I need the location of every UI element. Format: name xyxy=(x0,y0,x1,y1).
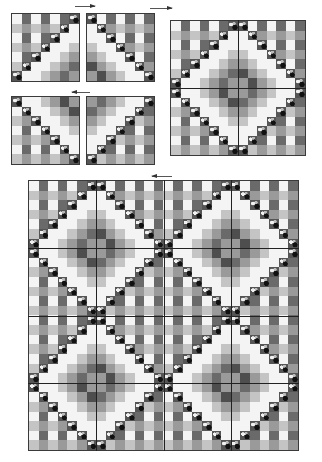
quilt-square xyxy=(173,335,183,345)
quilt-square xyxy=(240,200,250,210)
quilt-square xyxy=(238,126,248,136)
quilt-square xyxy=(200,59,210,69)
quilt-square xyxy=(106,229,116,239)
quilt-square xyxy=(125,43,135,53)
quilt-square xyxy=(67,354,77,364)
quilt-square xyxy=(96,248,106,258)
quilt-square xyxy=(231,440,241,450)
quilt-square xyxy=(154,392,164,402)
quilt-square xyxy=(144,364,154,374)
quilt-square xyxy=(181,40,191,50)
quilt-square xyxy=(67,431,77,441)
quilt-square xyxy=(67,296,77,306)
quilt-square xyxy=(96,239,106,249)
quilt-square xyxy=(50,135,60,145)
quilt-square xyxy=(106,154,116,164)
quilt-square xyxy=(295,126,305,136)
quilt-square xyxy=(286,136,296,146)
quilt-square xyxy=(22,145,32,155)
quilt-square xyxy=(269,373,279,383)
quilt-square xyxy=(67,421,77,431)
quilt-square xyxy=(260,210,270,220)
quilt-square xyxy=(269,335,279,345)
quilt-square xyxy=(69,43,79,53)
quilt-square xyxy=(288,296,298,306)
quilt-square xyxy=(58,181,68,191)
quilt-square xyxy=(221,181,231,191)
quilt-square xyxy=(200,136,210,146)
quilt-square xyxy=(60,71,70,81)
quilt-square xyxy=(257,126,267,136)
quilt-square xyxy=(231,421,241,431)
quilt-square xyxy=(60,97,70,107)
quilt-square xyxy=(228,107,238,117)
quilt-square xyxy=(106,412,116,422)
quilt-square xyxy=(58,364,68,374)
quilt-square xyxy=(173,267,183,277)
quilt-square xyxy=(288,383,298,393)
quilt-square xyxy=(77,325,87,335)
quilt-square xyxy=(295,21,305,31)
quilt-square xyxy=(212,296,222,306)
quilt-square xyxy=(87,239,97,249)
quilt-square xyxy=(221,258,231,268)
quilt-square xyxy=(22,33,32,43)
quilt-square xyxy=(77,383,87,393)
quilt-square xyxy=(231,239,241,249)
quilt-square xyxy=(286,88,296,98)
quilt-square xyxy=(250,258,260,268)
quilt-square xyxy=(87,354,97,364)
quilt-square xyxy=(190,59,200,69)
quilt-square xyxy=(212,402,222,412)
quilt-square xyxy=(116,24,126,34)
quilt-square xyxy=(163,344,173,354)
quilt-square xyxy=(181,107,191,117)
quilt-square xyxy=(77,219,87,229)
quilt-square xyxy=(77,191,87,201)
quilt-square xyxy=(144,154,154,164)
quilt-square xyxy=(250,364,260,374)
quilt-square xyxy=(171,69,181,79)
quilt-square xyxy=(190,136,200,146)
quilt-square xyxy=(221,219,231,229)
quilt-square xyxy=(221,306,231,316)
quilt-square xyxy=(181,98,191,108)
quilt-square xyxy=(135,107,145,117)
quilt-square xyxy=(67,239,77,249)
quilt-square xyxy=(260,267,270,277)
quilt-square xyxy=(96,277,106,287)
quilt-square xyxy=(41,154,51,164)
quilt-square xyxy=(279,258,289,268)
quilt-square xyxy=(135,33,145,43)
quilt-square xyxy=(135,296,145,306)
quilt-square xyxy=(260,239,270,249)
quilt-square xyxy=(279,440,289,450)
quilt-square xyxy=(276,136,286,146)
quilt-square xyxy=(96,219,106,229)
quilt-square xyxy=(87,306,97,316)
quilt-square xyxy=(144,71,154,81)
quilt-square xyxy=(58,392,68,402)
quilt-square xyxy=(240,191,250,201)
quilt-square xyxy=(250,335,260,345)
quilt-square xyxy=(163,421,173,431)
quilt-square xyxy=(39,440,49,450)
quilt-square xyxy=(41,126,51,136)
quilt-square xyxy=(60,135,70,145)
quilt-square xyxy=(106,267,116,277)
quilt-square xyxy=(221,296,231,306)
quilt-square xyxy=(77,306,87,316)
quilt-square xyxy=(135,200,145,210)
quilt-square xyxy=(238,145,248,155)
quilt-square xyxy=(48,239,58,249)
quilt-square xyxy=(97,71,107,81)
quilt-square xyxy=(116,107,126,117)
quilt-square xyxy=(276,107,286,117)
quilt-square xyxy=(202,306,212,316)
quilt-square xyxy=(171,98,181,108)
quilt-square xyxy=(115,392,125,402)
quilt-square xyxy=(106,219,116,229)
quilt-square xyxy=(267,98,277,108)
quilt-square xyxy=(135,440,145,450)
quilt-square xyxy=(279,229,289,239)
